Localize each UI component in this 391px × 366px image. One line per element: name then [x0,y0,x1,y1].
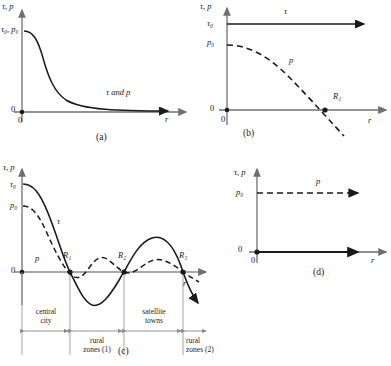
panel-d-caption: (d) [313,267,324,277]
panel-c-crossing-label-R2: R₂ [118,251,126,260]
panel-c: τ, p τ₀ p₀ 0 r τ p R₁ R₂ R₃ [0,155,230,366]
panel-c-tau-curve-label: τ [57,217,60,226]
panel-b-caption: (b) [243,128,254,138]
panel-a: τ, p τ₀, p₀ 0 0 r τ and p (a) [0,0,196,155]
panel-a-xaxis-label: r [165,115,168,124]
panel-c-zone-label-rural-zones-1: rural zones (1) [72,337,122,354]
panel-c-zone-label-rural-zones-2: rural zones (2) [186,337,234,354]
zone-line-2: zones (1) [83,345,111,354]
zone-line-2: zones (2) [186,345,214,354]
panel-c-yaxis-label: τ, p [3,163,15,172]
panel-a-origin-x-label: 0 [18,116,22,125]
panel-c-origin-y-label: 0 [11,266,15,275]
panel-c-crossing-dot-R3 [180,269,185,274]
panel-c-tau-level-label: τ₀ [10,180,16,189]
panel-b-crossing-label: R₁ [333,92,341,101]
panel-d-yaxis-label: τ, p [234,168,246,177]
panel-c-p-curve-label: p [35,254,39,263]
panel-b-plot [196,0,391,155]
panel-a-caption: (a) [96,132,107,142]
panel-c-crossing-dot-R2 [121,269,126,274]
panel-c-zone-label-central-city: central city [22,308,70,325]
panel-a-curve-tau-and-p [24,31,168,111]
panel-a-value-label: τ₀, p₀ [1,25,18,34]
panel-d-p-curve-label: p [316,177,320,186]
panel-b-yaxis-label: τ, p [200,2,212,11]
panel-b-crossing-dot-R1 [322,107,327,112]
zone-line-2: city [40,316,51,325]
panel-c-crossing-label-R1: R₁ [63,251,71,260]
panel-d-xaxis-label: r [371,256,374,265]
panel-b-tau-level-label: τ₀ [207,19,213,28]
panel-b-p-curve-label: p [289,56,293,65]
panel-a-origin-y-label: 0 [11,105,15,114]
panel-c-crossing-dot-R1 [67,269,72,274]
panel-b-tau-curve-label: τ [284,7,287,16]
panel-b-origin-dot [225,108,230,113]
panel-a-curve-label: τ and p [106,88,130,97]
panel-c-p-level-label: p₀ [10,201,17,210]
panel-c-zone-label-satellite-towns: satellite towns [126,308,182,325]
panel-b-origin-y-label: 0 [210,104,214,113]
panel-b-p-level-label: p₀ [207,38,214,47]
panel-d-origin-x-label: 0 [251,256,255,265]
panel-a-origin-dot [20,110,25,115]
panel-d-plot [230,155,391,305]
panel-a-yaxis-label: τ, p [2,2,14,11]
panel-c-curve-tau [23,184,198,305]
panel-d-p-level-label: p₀ [236,188,243,197]
panel-b-origin-x-label: 0 [221,115,225,124]
panel-b-curve-p [227,45,344,136]
panel-c-caption: (c) [118,346,129,356]
panel-c-crossing-label-R3: R₃ [179,251,187,260]
panel-b: τ, p τ₀ p₀ 0 0 r τ p R₁ (b) [196,0,391,155]
panel-d: τ, p p₀ 0 0 r p (d) [230,155,391,305]
panel-c-xaxis-label: r [183,279,186,288]
zone-line-2: towns [145,316,163,325]
panel-d-origin-y-label: 0 [238,245,242,254]
panel-b-xaxis-label: r [368,116,371,125]
